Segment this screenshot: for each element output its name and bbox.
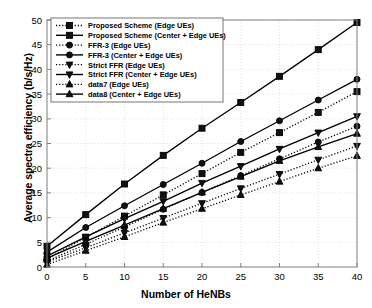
data-point-marker [199,171,205,177]
x-tick-label: 0 [44,271,49,282]
y-axis-label: Average spectra efficiency (b/s/Hz) [22,18,34,258]
data-point-marker [83,224,89,230]
data-point-marker [160,182,166,188]
data-point-marker [315,97,321,103]
data-point-marker [122,181,128,187]
data-point-marker [238,99,244,105]
data-point-marker [67,23,73,29]
data-point-marker [277,73,283,79]
x-tick-label: 30 [274,271,285,282]
y-tick-label: 0 [37,262,42,273]
data-point-marker [315,47,321,53]
x-axis-label: Number of HeNBs [0,288,372,300]
data-point-marker [199,160,205,166]
data-point-marker [83,212,89,218]
legend-label: data8 (Center + Edge UEs) [88,90,181,99]
legend-label: Proposed Scheme (Center + Edge UEs) [88,31,226,40]
data-point-marker [277,118,283,124]
chart-figure: 051015202530354005101520253035404550Prop… [0,0,372,308]
legend-label: Strict FFR (Edge UEs) [88,61,165,70]
data-point-marker [199,125,205,131]
legend-label: Proposed Scheme (Edge UEs) [88,21,194,30]
data-point-marker [160,192,166,198]
data-point-marker [238,149,244,155]
x-tick-label: 10 [119,271,130,282]
data-point-marker [315,109,321,115]
x-tick-label: 40 [352,271,363,282]
data-point-marker [67,52,73,58]
legend-label: FFR-3 (Center + Edge UEs) [88,51,183,60]
y-tick-label: 5 [37,237,42,248]
x-tick-label: 15 [158,271,169,282]
data-point-marker [238,139,244,145]
chart-canvas: 051015202530354005101520253035404550Prop… [0,0,372,308]
legend-label: FFR-3 (Edge UEs) [88,41,151,50]
legend-label: Strict FFR (Center + Edge UEs) [88,70,197,79]
data-point-marker [122,203,128,209]
data-point-marker [160,152,166,158]
x-tick-label: 5 [83,271,88,282]
x-tick-label: 20 [197,271,208,282]
data-point-marker [277,130,283,136]
x-tick-label: 35 [313,271,324,282]
legend: Proposed Scheme (Edge UEs)Proposed Schem… [51,18,226,102]
legend-label: data7 (Edge UEs) [88,80,149,89]
x-tick-label: 25 [235,271,246,282]
data-point-marker [67,32,73,38]
data-point-marker [67,42,73,48]
